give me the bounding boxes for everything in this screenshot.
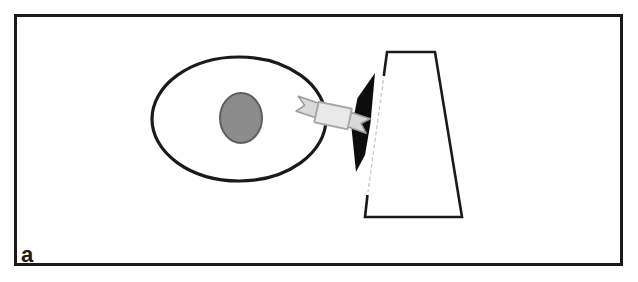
figure-panel: a — [0, 0, 638, 282]
figure-canvas: a — [0, 0, 638, 282]
panel-label: a — [21, 242, 34, 267]
cell-nucleus — [220, 93, 262, 143]
